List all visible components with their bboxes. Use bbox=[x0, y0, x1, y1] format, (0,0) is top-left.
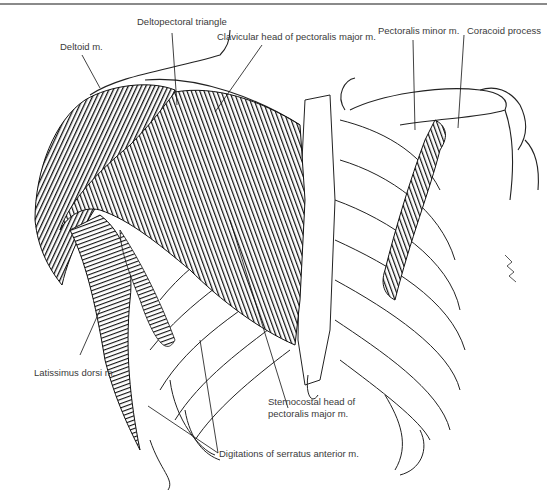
label-sternocostal-head-line2: pectoralis major m. bbox=[268, 408, 348, 419]
label-deltopectoral-triangle: Deltopectoral triangle bbox=[137, 16, 227, 27]
label-pectoralis-minor: Pectoralis minor m. bbox=[378, 25, 459, 36]
label-sternocostal-head-line1: Sternocostal head of bbox=[268, 396, 355, 407]
label-deltoid: Deltoid m. bbox=[60, 41, 103, 52]
label-coracoid-process: Coracoid process bbox=[467, 25, 541, 36]
label-latissimus-dorsi: Latissimus dorsi m. bbox=[34, 367, 115, 378]
sternum bbox=[298, 95, 335, 385]
label-clavicular-head: Clavicular head of pectoralis major m. bbox=[217, 31, 376, 42]
ribcage-right bbox=[335, 120, 465, 475]
artist-signature bbox=[505, 255, 516, 282]
pectoralis-minor-muscle bbox=[383, 120, 445, 300]
anatomy-illustration bbox=[0, 0, 547, 504]
label-serratus-anterior: Digitations of serratus anterior m. bbox=[219, 448, 359, 459]
